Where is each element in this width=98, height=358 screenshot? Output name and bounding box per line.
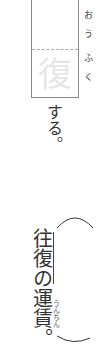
phrase-rest: の運賃。 xyxy=(29,268,53,348)
bottom-arc xyxy=(57,336,90,342)
underlined-word: 往復 xyxy=(29,228,53,268)
furigana-unchin: うんちん xyxy=(52,300,60,328)
top-arc xyxy=(57,218,93,228)
sideline-mark xyxy=(53,232,54,284)
example-phrase: 往復の運賃。 xyxy=(30,228,52,348)
